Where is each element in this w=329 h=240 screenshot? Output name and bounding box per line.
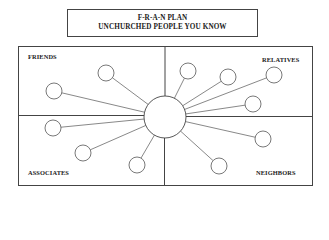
spoke-line-associates — [61, 119, 144, 127]
spoke-line-neighbors — [181, 131, 214, 161]
person-circle-relatives — [245, 96, 261, 112]
center-hub-circle — [144, 96, 186, 138]
spoke-line-neighbors — [185, 122, 255, 138]
person-circle-neighbors — [255, 131, 271, 147]
person-circle-associates — [75, 145, 91, 161]
spoke-line-friends — [112, 78, 148, 105]
person-circle-relatives — [266, 67, 282, 83]
quadrant-label-relatives: RELATIVES — [262, 56, 299, 63]
person-circle-relatives — [220, 69, 236, 85]
quadrant-label-neighbors: NEIGHBORS — [256, 169, 296, 176]
person-circle-friends — [46, 83, 62, 99]
spoke-line-associates — [90, 125, 145, 149]
person-circle-associates — [45, 120, 61, 136]
spoke-line-friends — [62, 93, 145, 112]
spoke-line-associates — [141, 135, 154, 158]
spoke-line-relatives — [183, 81, 222, 105]
person-circle-friends — [98, 65, 114, 81]
person-circle-neighbors — [211, 158, 227, 174]
spoke-line-relatives — [174, 78, 184, 98]
person-circle-relatives — [180, 63, 196, 79]
person-circle-associates — [129, 157, 145, 173]
spoke-line-relatives — [186, 105, 245, 114]
quadrant-label-friends: FRIENDS — [28, 53, 57, 60]
quadrant-label-associates: ASSOCIATES — [28, 169, 69, 176]
